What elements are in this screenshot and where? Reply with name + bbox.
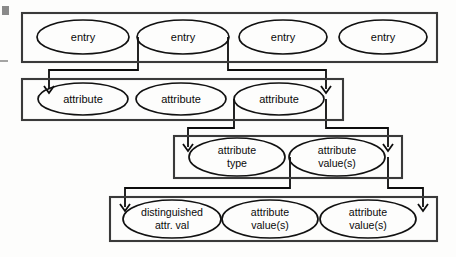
attribute-parts-group: attribute type attribute value(s) [174,136,402,178]
attribute-values-2-label-line2: value(s) [251,219,289,231]
attribute-values-label-line1: attribute [318,144,356,156]
attribute-3-label: attribute [259,93,299,105]
diagram-canvas: entry entry entry entry attribute [0,0,456,257]
attribute-type-label-line2: type [227,157,247,169]
distinguished-attr-val-label-line2: attr. val [155,219,189,231]
attribute-values-label-line2: value(s) [318,157,356,169]
node-attribute-3[interactable]: attribute [234,83,324,115]
connectors-layer [44,37,428,211]
diagram-svg: entry entry entry entry attribute [0,0,456,257]
entry-3-label: entry [271,31,296,43]
node-entry-1[interactable]: entry [37,20,129,54]
attribute-1-label: attribute [63,93,103,105]
node-entry-2[interactable]: entry [137,20,229,54]
node-distinguished-attr-val[interactable]: distinguished attr. val [123,200,221,238]
attribute-type-label-line1: attribute [218,144,256,156]
attribute-values-2-label-line1: attribute [251,206,289,218]
entry-1-label: entry [71,31,96,43]
attribute-group: attribute attribute attribute [22,79,343,120]
node-attribute-values-2[interactable]: attribute value(s) [222,200,318,238]
entry-group: entry entry entry entry [22,13,437,62]
attribute-values-3-label-line2: value(s) [349,219,387,231]
node-attribute-values-3[interactable]: attribute value(s) [320,200,416,238]
entry-4-label: entry [371,31,396,43]
scan-artifact-square [2,6,9,15]
node-attribute-1[interactable]: attribute [38,83,128,115]
node-attribute-2[interactable]: attribute [136,83,226,115]
attribute-2-label: attribute [161,93,201,105]
attribute-values-group: distinguished attr. val attribute value(… [110,197,437,241]
node-attribute-type[interactable]: attribute type [189,138,285,176]
distinguished-attr-val-label-line1: distinguished [141,206,203,218]
attribute-values-3-label-line1: attribute [349,206,387,218]
scan-artifacts [0,6,9,61]
node-entry-4[interactable]: entry [339,20,427,54]
node-attribute-values[interactable]: attribute value(s) [289,138,385,176]
node-entry-3[interactable]: entry [239,20,327,54]
entry-2-label: entry [171,31,196,43]
